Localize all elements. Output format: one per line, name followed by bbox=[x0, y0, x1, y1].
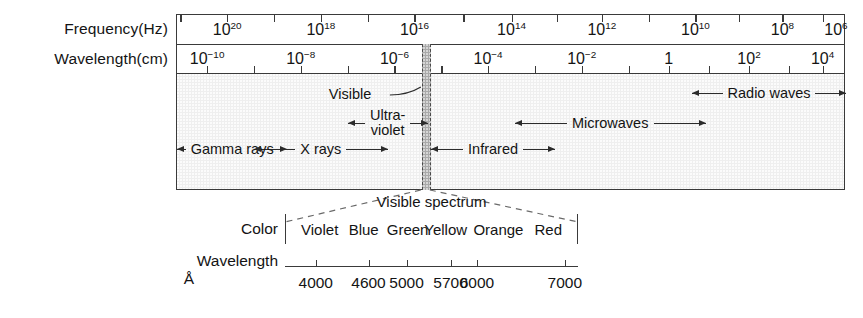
wavelength-tick bbox=[565, 260, 566, 266]
region-gamma-rays: Gamma rays bbox=[177, 140, 287, 158]
wavelength-tick bbox=[407, 260, 408, 266]
detail-wavelength-label: Wavelength bbox=[100, 252, 278, 270]
wavelength-value: 7000 bbox=[548, 274, 582, 292]
frequency-tick-container: 102010181016101410121010108106 bbox=[177, 15, 844, 44]
scale-tick bbox=[463, 15, 464, 22]
frequency-scale-row: 102010181016101410121010108106 bbox=[176, 14, 845, 44]
scale-tick bbox=[535, 66, 536, 73]
color-name-orange: Orange bbox=[473, 221, 523, 238]
color-names-row: VioletBlueGreenYellowOrangeRed bbox=[285, 214, 578, 244]
scale-tick bbox=[512, 15, 513, 22]
scale-tick bbox=[649, 15, 650, 22]
arrow-head-left bbox=[348, 120, 355, 126]
wavelength-tick bbox=[451, 260, 452, 266]
color-row-label: Color bbox=[120, 220, 278, 238]
scale-value: 106 bbox=[824, 22, 847, 38]
scale-value: 10−10 bbox=[190, 51, 225, 67]
region-label: Microwaves bbox=[567, 116, 654, 131]
spectrum-band: Visible Gamma raysX raysUltra-violetInfr… bbox=[176, 74, 845, 190]
scale-value: 1020 bbox=[213, 22, 242, 38]
wavelength-tick bbox=[316, 260, 317, 266]
scale-value: 10−2 bbox=[567, 51, 596, 67]
scale-tick bbox=[695, 15, 696, 22]
scale-tick bbox=[368, 15, 369, 22]
region-label: X rays bbox=[295, 142, 346, 157]
scale-tick bbox=[749, 66, 750, 73]
arrow-head-left bbox=[515, 120, 522, 126]
scale-tick bbox=[321, 15, 322, 22]
arrow-head-right bbox=[421, 120, 428, 126]
scale-tick bbox=[414, 15, 415, 22]
region-label: Gamma rays bbox=[186, 142, 279, 157]
scale-tick bbox=[207, 66, 208, 73]
scale-value: 1010 bbox=[681, 22, 710, 38]
color-name-blue: Blue bbox=[349, 221, 379, 238]
angstrom-unit-label: Å bbox=[100, 270, 278, 288]
scale-value: 1018 bbox=[306, 22, 335, 38]
color-name-red: Red bbox=[534, 221, 562, 238]
scale-tick bbox=[602, 15, 603, 22]
em-spectrum-figure: Frequency(Hz) Wavelength(cm) 10201018101… bbox=[0, 0, 863, 318]
scale-tick bbox=[782, 15, 783, 22]
arrow-head-left bbox=[692, 90, 699, 96]
scale-tick bbox=[789, 66, 790, 73]
frequency-axis-label: Frequency(Hz) bbox=[20, 20, 168, 38]
color-name-green: Green bbox=[387, 221, 429, 238]
arrow-head-left bbox=[177, 146, 184, 152]
scale-value: 1014 bbox=[497, 22, 526, 38]
arrow-head-left bbox=[254, 146, 261, 152]
scale-value: 1 bbox=[664, 51, 673, 67]
scale-tick bbox=[254, 66, 255, 73]
scale-tick bbox=[227, 15, 228, 22]
arrow-head-left bbox=[431, 146, 438, 152]
arrow-head-right bbox=[839, 90, 846, 96]
scale-tick bbox=[488, 66, 489, 73]
visible-spectrum-title: Visible spectrum bbox=[285, 193, 578, 210]
scale-tick bbox=[739, 15, 740, 22]
wavelength-value: 4000 bbox=[299, 274, 333, 292]
scale-tick bbox=[629, 66, 630, 73]
scale-value: 108 bbox=[771, 22, 794, 38]
wavelength-tick-container: 10−1010−810−610−410−21102104 bbox=[177, 45, 844, 73]
scale-tick bbox=[823, 15, 824, 22]
wavelength-axis-label: Wavelength(cm) bbox=[20, 50, 168, 68]
arrow-head-right bbox=[548, 146, 555, 152]
wavelength-tick bbox=[369, 260, 370, 266]
scale-value: 1016 bbox=[400, 22, 429, 38]
arrow-head-right bbox=[699, 120, 706, 126]
scale-tick bbox=[709, 66, 710, 73]
scale-value: 10−6 bbox=[380, 51, 409, 67]
wavelength-scale-row: 10−1010−810−610−410−21102104 bbox=[176, 44, 845, 74]
detail-wavelength-axis bbox=[285, 266, 578, 267]
scale-value: 104 bbox=[811, 51, 834, 67]
arrow-head-right bbox=[381, 146, 388, 152]
scale-value: 102 bbox=[737, 51, 760, 67]
scale-tick bbox=[348, 66, 349, 73]
scale-value: 10−4 bbox=[474, 51, 503, 67]
region-rule bbox=[515, 123, 567, 124]
scale-tick bbox=[274, 15, 275, 22]
scale-tick bbox=[301, 66, 302, 73]
wavelength-value: 4600 bbox=[351, 274, 385, 292]
scale-tick bbox=[394, 66, 395, 73]
scale-tick bbox=[557, 15, 558, 22]
scale-tick bbox=[669, 66, 670, 73]
region-label: Radio waves bbox=[723, 86, 816, 101]
wavelength-value: 6000 bbox=[460, 274, 494, 292]
wavelength-value: 5000 bbox=[389, 274, 423, 292]
scale-value: 1012 bbox=[587, 22, 616, 38]
scale-tick bbox=[823, 66, 824, 73]
color-name-violet: Violet bbox=[301, 221, 338, 238]
scale-tick bbox=[582, 66, 583, 73]
arrow-head-right bbox=[280, 146, 287, 152]
visible-spectrum-detail: Visible spectrum Color VioletBlueGreenYe… bbox=[0, 190, 863, 318]
scale-value: 10−8 bbox=[286, 51, 315, 67]
region-label: Ultra-violet bbox=[365, 108, 410, 138]
scale-tick bbox=[441, 66, 442, 73]
color-name-yellow: Yellow bbox=[424, 221, 467, 238]
region-label: Infrared bbox=[463, 142, 523, 157]
scale-tick bbox=[180, 15, 181, 22]
wavelength-tick bbox=[477, 260, 478, 266]
